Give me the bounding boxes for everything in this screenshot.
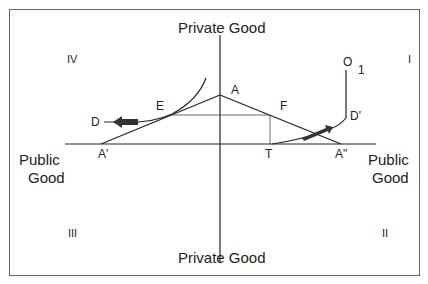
axis-title-right-line1: Public bbox=[368, 152, 409, 167]
point-o-label: O bbox=[343, 56, 352, 68]
point-t-label: T bbox=[265, 148, 272, 160]
diagram-canvas bbox=[0, 0, 428, 284]
left-arrow-icon bbox=[113, 116, 138, 128]
point-d-prime-label: D' bbox=[350, 110, 361, 122]
quadrant-iv-label: IV bbox=[67, 54, 77, 65]
quadrant-ii-label: II bbox=[382, 228, 388, 239]
point-a-label: A bbox=[231, 84, 239, 96]
indifference-curve-left bbox=[104, 78, 206, 122]
point-a-prime-label: A' bbox=[98, 148, 108, 160]
axis-title-right-line2: Good bbox=[372, 170, 409, 185]
axis-title-left-line1: Public bbox=[19, 152, 60, 167]
axis-title-left-line2: Good bbox=[28, 170, 65, 185]
axis-title-top: Private Good bbox=[178, 20, 266, 35]
point-o-subscript: 1 bbox=[358, 64, 365, 76]
axis-title-bottom: Private Good bbox=[178, 250, 266, 265]
point-a-double-prime-label: A" bbox=[335, 148, 347, 160]
point-d-label: D bbox=[91, 116, 100, 128]
point-f-label: F bbox=[280, 100, 287, 112]
quadrant-i-label: I bbox=[408, 54, 411, 65]
point-e-label: E bbox=[156, 100, 164, 112]
quadrant-iii-label: III bbox=[68, 228, 77, 239]
